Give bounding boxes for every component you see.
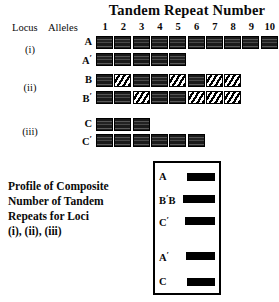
gel-band: [183, 195, 215, 203]
repeat-block-solid: [133, 118, 150, 131]
repeat-block-solid: [133, 74, 150, 87]
repeat-block-hatched: [169, 74, 186, 87]
gel-band: [186, 252, 215, 260]
repeat-block-solid: [133, 36, 150, 49]
composite-profile-gel: AB′BC′A′C: [153, 161, 221, 295]
gel-band-label-C: C: [159, 276, 167, 287]
gel-lane: C: [155, 275, 219, 291]
repeat-number-tick-4: 4: [151, 21, 169, 32]
gel-band-label-Aprime: A′: [159, 250, 169, 263]
gel-lane: A: [155, 170, 219, 186]
repeat-block-solid: [96, 53, 113, 66]
alleles-column-header: Alleles: [48, 22, 78, 33]
repeat-block-solid: [96, 91, 113, 104]
repeat-block-solid: [169, 36, 186, 49]
repeat-block-solid: [96, 118, 113, 131]
gel-lane: C′: [155, 214, 219, 230]
repeat-number-tick-10: 10: [261, 21, 279, 32]
gel-band-label-Cprime: C′: [159, 215, 169, 228]
repeat-number-tick-7: 7: [206, 21, 224, 32]
prime-mark: ′: [89, 134, 92, 144]
figure-title: Tandem Repeat Number: [96, 2, 278, 19]
repeat-number-tick-2: 2: [114, 21, 132, 32]
allele-label-B-prime: B′: [52, 91, 92, 104]
repeat-block-solid: [188, 134, 205, 147]
repeat-block-solid: [151, 74, 168, 87]
allele-label-C: C: [52, 118, 92, 129]
repeat-block-hatched: [206, 74, 223, 87]
repeat-block-solid: [188, 36, 205, 49]
repeat-block-solid: [114, 91, 131, 104]
repeat-number-tick-6: 6: [188, 21, 206, 32]
repeat-number-tick-5: 5: [169, 21, 187, 32]
repeat-block-solid: [151, 134, 168, 147]
locus-label-1: (i): [10, 44, 50, 55]
allele-label-C-prime: C′: [52, 134, 92, 147]
repeat-block-solid: [169, 134, 186, 147]
locus-column-header: Locus: [12, 22, 38, 33]
profile-caption: Profile of CompositeNumber of TandemRepe…: [8, 179, 148, 239]
repeat-block-solid: [96, 74, 113, 87]
prime-mark: ′: [166, 193, 169, 203]
repeat-block-solid: [242, 36, 259, 49]
repeat-block-solid: [114, 134, 131, 147]
profile-caption-line-2: Number of Tandem: [8, 194, 148, 209]
repeat-block-hatched: [206, 91, 223, 104]
repeat-number-tick-1: 1: [96, 21, 114, 32]
repeat-number-tick-8: 8: [224, 21, 242, 32]
repeat-block-solid: [151, 53, 168, 66]
profile-caption-line-1: Profile of Composite: [8, 179, 148, 194]
prime-mark: ′: [167, 215, 170, 225]
repeat-block-solid: [114, 36, 131, 49]
gel-band: [187, 173, 215, 181]
repeat-block-hatched: [224, 91, 241, 104]
repeat-block-hatched: [188, 91, 205, 104]
repeat-number-tick-3: 3: [133, 21, 151, 32]
repeat-block-hatched: [114, 74, 131, 87]
repeat-block-solid: [224, 36, 241, 49]
prime-mark: ′: [89, 91, 92, 101]
repeat-number-tick-9: 9: [242, 21, 260, 32]
profile-caption-line-4: (i), (ii), (iii): [8, 224, 148, 239]
repeat-block-solid: [169, 91, 186, 104]
profile-caption-line-3: Repeats for Loci: [8, 209, 148, 224]
repeat-block-solid: [206, 36, 223, 49]
repeat-block-solid: [114, 53, 131, 66]
repeat-block-solid: [151, 91, 168, 104]
repeat-block-solid: [133, 134, 150, 147]
gel-band-label-A: A: [159, 171, 167, 182]
gel-lane: B′B: [155, 192, 219, 208]
locus-label-3: (iii): [10, 126, 50, 137]
repeat-block-hatched: [133, 91, 150, 104]
repeat-block-solid: [114, 118, 131, 131]
allele-label-A: A: [52, 36, 92, 47]
allele-label-B: B: [52, 74, 92, 85]
gel-band: [185, 217, 215, 225]
repeat-block-solid: [96, 134, 113, 147]
locus-label-2: (ii): [10, 82, 50, 93]
repeat-block-solid: [188, 74, 205, 87]
repeat-number-axis: 12345678910: [96, 21, 279, 34]
figure-root: Tandem Repeat Number Locus Alleles 12345…: [0, 0, 279, 302]
gel-band-label-BprimeB: B′B: [159, 193, 176, 206]
repeat-block-solid: [261, 36, 278, 49]
prime-mark: ′: [167, 250, 170, 260]
prime-mark: ′: [89, 53, 92, 63]
repeat-block-hatched: [224, 74, 241, 87]
repeat-block-solid: [169, 53, 186, 66]
repeat-block-solid: [151, 36, 168, 49]
gel-band: [187, 278, 215, 286]
allele-label-A-prime: A′: [52, 53, 92, 66]
repeat-block-solid: [133, 53, 150, 66]
repeat-block-solid: [96, 36, 113, 49]
gel-lane: A′: [155, 249, 219, 265]
